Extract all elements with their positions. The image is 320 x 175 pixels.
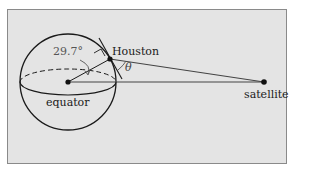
elevation-angle-label: θ — [125, 61, 132, 74]
houston-to-satellite-line — [110, 59, 264, 82]
equator-label: equator — [46, 96, 90, 109]
latitude-arrow-icon — [85, 70, 90, 75]
satellite-label: satellite — [244, 88, 289, 101]
latitude-angle-arc — [80, 60, 89, 74]
satellite-point — [261, 79, 267, 85]
latitude-angle-label: 29.7° — [53, 45, 83, 58]
earth-center-point — [65, 79, 70, 84]
houston-label: Houston — [112, 45, 159, 58]
